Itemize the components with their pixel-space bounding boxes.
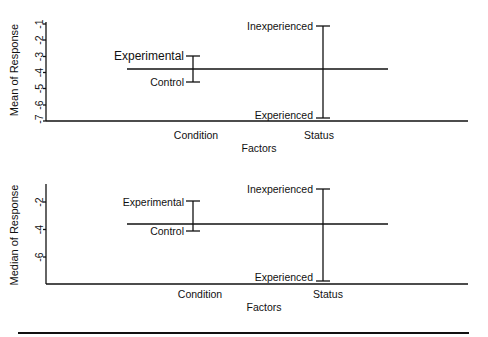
x-category-status: Status [304, 129, 334, 141]
tick-label: -3 [33, 52, 45, 61]
tick-label: -1 [33, 19, 45, 28]
tick-label: -4 [33, 225, 45, 234]
bottom-y-label: Median of Response [8, 185, 20, 286]
inexperienced-label: Inexperienced [247, 183, 313, 195]
tick-label: -6 [33, 100, 45, 109]
x-category-status: Status [313, 288, 343, 300]
tick-label: -4 [33, 68, 45, 77]
tick-label: -5 [33, 84, 45, 93]
experienced-label: Experienced [255, 271, 314, 283]
experienced-label: Experienced [255, 109, 314, 121]
top-y-label: Mean of Response [8, 24, 20, 116]
factor-effects-figure: Mean of Response -1 -2 -3 -4 -5 -6 -7 Ex… [0, 0, 488, 337]
x-category-condition: Condition [178, 288, 223, 300]
experimental-label: Experimental [123, 196, 184, 208]
experimental-label: Experimental [114, 49, 184, 63]
control-label: Control [150, 225, 184, 237]
tick-label: -2 [33, 197, 45, 206]
tick-label: -2 [33, 35, 45, 44]
inexperienced-label: Inexperienced [247, 20, 313, 32]
tick-label: -7 [33, 114, 45, 123]
bottom-labels: Median of Response -2 -4 -6 Experimental… [8, 183, 343, 313]
bottom-plot [43, 184, 468, 284]
top-x-label: Factors [241, 142, 276, 154]
tick-label: -6 [33, 252, 45, 261]
x-category-condition: Condition [174, 129, 219, 141]
bottom-x-label: Factors [246, 301, 281, 313]
top-plot [43, 22, 468, 121]
control-label: Control [150, 76, 184, 88]
top-labels: Mean of Response -1 -2 -3 -4 -5 -6 -7 Ex… [8, 19, 334, 154]
